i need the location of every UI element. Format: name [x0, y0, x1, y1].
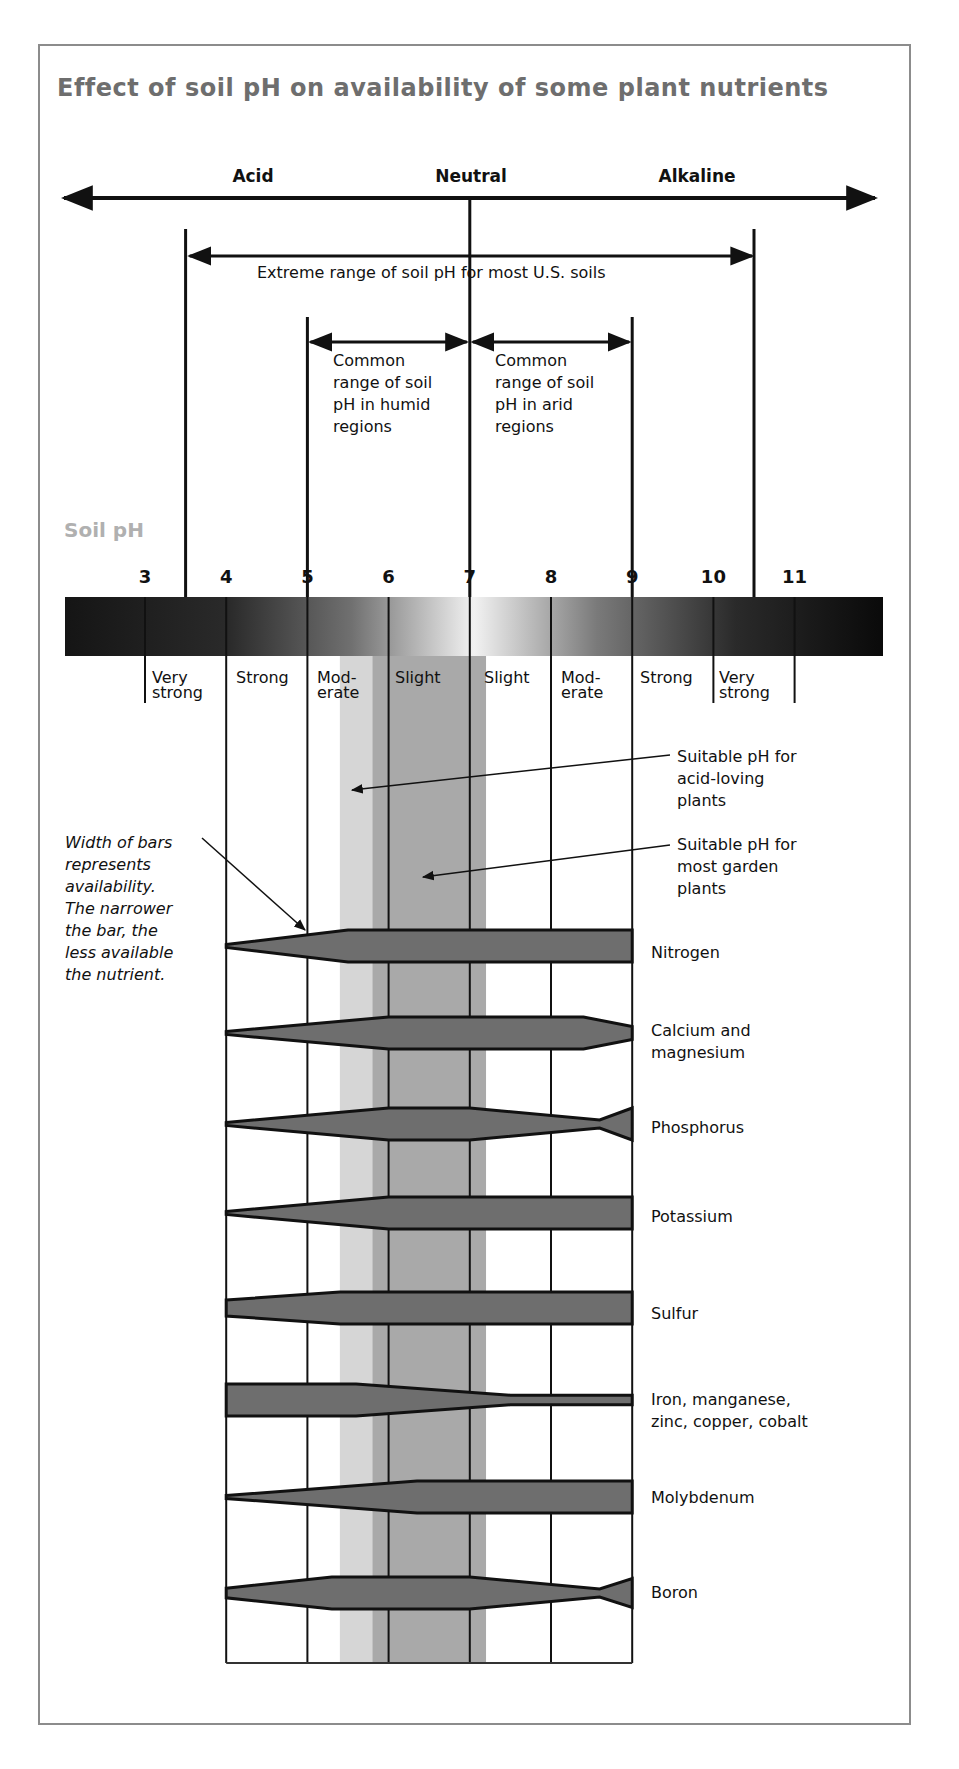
nutrient-bar-phosphorus: [226, 1108, 632, 1140]
nutrient-label: Calcium and magnesium: [651, 1020, 751, 1064]
ph-tick-8: 8: [545, 566, 558, 587]
nutrient-bar-calcium: [226, 1017, 632, 1049]
extreme-range-label: Extreme range of soil pH for most U.S. s…: [257, 262, 606, 284]
nutrient-label: Iron, manganese, zinc, copper, cobalt: [651, 1389, 808, 1433]
acid-loving-annotation: Suitable pH for acid-loving plants: [677, 746, 797, 812]
nutrient-label: Phosphorus: [651, 1117, 744, 1139]
acidity-zone-label: Slight: [484, 670, 530, 685]
ph-tick-5: 5: [301, 566, 314, 587]
nutrient-label: Nitrogen: [651, 942, 720, 964]
ph-tick-10: 10: [701, 566, 726, 587]
nutrient-bar-iron: [226, 1384, 632, 1416]
acidity-zone-label: Very strong: [719, 670, 770, 700]
nutrient-bar-potassium: [226, 1197, 632, 1229]
nutrient-label: Molybdenum: [651, 1487, 755, 1509]
ph-tick-4: 4: [220, 566, 233, 587]
acid-label: Acid: [232, 166, 273, 186]
nutrient-label: Sulfur: [651, 1303, 698, 1325]
nutrient-bar-boron: [226, 1577, 632, 1609]
arid-range-label: Common range of soil pH in arid regions: [495, 350, 594, 438]
nutrient-bar-sulfur: [226, 1292, 632, 1324]
acidity-zone-label: Strong: [640, 670, 693, 685]
bar-width-note: Width of bars represents availability. T…: [65, 832, 173, 986]
soil-ph-label: Soil pH: [64, 518, 144, 542]
acidity-zone-label: Strong: [236, 670, 289, 685]
alkaline-label: Alkaline: [658, 166, 735, 186]
acidity-zone-label: Mod- erate: [561, 670, 603, 700]
neutral-label: Neutral: [435, 166, 507, 186]
nutrient-label: Potassium: [651, 1206, 733, 1228]
nutrient-bar-nitrogen: [226, 930, 632, 962]
humid-range-label: Common range of soil pH in humid regions: [333, 350, 432, 438]
ph-tick-11: 11: [782, 566, 807, 587]
ph-tick-6: 6: [382, 566, 395, 587]
ph-tick-9: 9: [626, 566, 639, 587]
ph-tick-7: 7: [464, 566, 477, 587]
band-0: [340, 656, 372, 1663]
ph-tick-3: 3: [139, 566, 152, 587]
acidity-zone-label: Mod- erate: [317, 670, 359, 700]
garden-plants-annotation: Suitable pH for most garden plants: [677, 834, 797, 900]
nutrient-label: Boron: [651, 1582, 698, 1604]
nutrient-bar-molybdenum: [226, 1481, 632, 1513]
acidity-zone-label: Slight: [395, 670, 441, 685]
width-note-pointer: [202, 838, 305, 930]
ph-gradient-bar: [65, 597, 883, 656]
acidity-zone-label: Very strong: [152, 670, 203, 700]
